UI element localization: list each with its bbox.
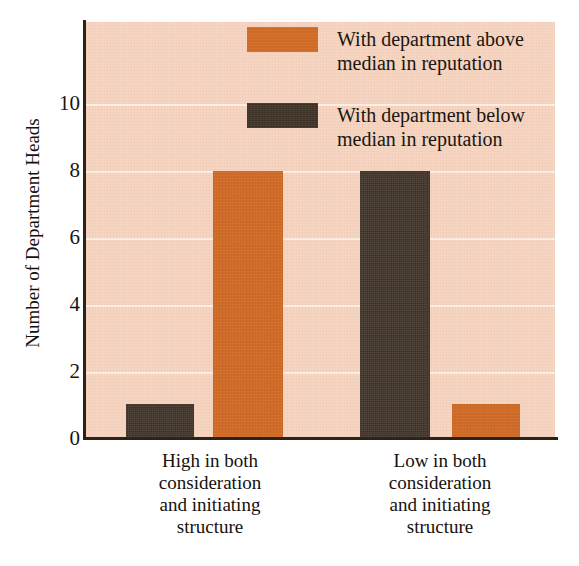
- bar-chart-figure: With department above median in reputati…: [0, 0, 579, 566]
- plot-area: With department above median in reputati…: [86, 22, 555, 437]
- y-tick-label-0: 0: [10, 428, 80, 449]
- x-axis-line: [83, 437, 558, 440]
- y-tick-label-6: 6: [10, 227, 80, 248]
- bar-low-below-median[interactable]: [360, 171, 430, 437]
- y-tick-label-8: 8: [10, 160, 80, 181]
- gridline-4: [86, 305, 555, 307]
- x-category-label-high: High in both consideration and initiatin…: [110, 450, 310, 538]
- bar-low-above-median[interactable]: [452, 404, 520, 437]
- y-tick-label-4: 4: [10, 294, 80, 315]
- legend-entry-above-median[interactable]: With department above median in reputati…: [247, 27, 524, 75]
- legend-label-below-median: With department below median in reputati…: [337, 103, 525, 151]
- y-tick-label-10: 10: [10, 93, 80, 114]
- legend-swatch-orange-icon: [247, 27, 318, 52]
- y-axis-tick-labels: 10 8 6 4 2 0: [8, 0, 80, 566]
- x-category-label-low: Low in both consideration and initiating…: [340, 450, 540, 538]
- gridline-6: [86, 238, 555, 240]
- legend-entry-below-median[interactable]: With department below median in reputati…: [247, 103, 525, 151]
- legend-swatch-dark-icon: [247, 103, 318, 128]
- gridline-8: [86, 171, 555, 173]
- y-axis-line: [83, 20, 86, 439]
- y-tick-label-2: 2: [10, 361, 80, 382]
- gridline-2: [86, 372, 555, 374]
- y-axis-title: Number of Department Heads: [22, 83, 44, 383]
- legend-label-above-median: With department above median in reputati…: [337, 27, 524, 75]
- bar-high-below-median[interactable]: [126, 404, 194, 437]
- bar-high-above-median[interactable]: [213, 171, 283, 437]
